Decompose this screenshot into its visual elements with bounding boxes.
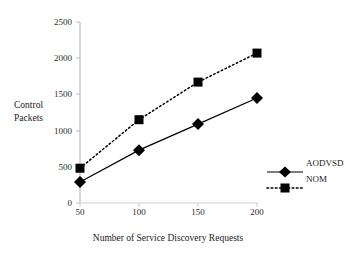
aodvsd-line: [80, 98, 257, 182]
y-tick-label-1000: 1000: [54, 126, 73, 136]
series-nom: [76, 49, 262, 173]
line-chart-svg: 2500 2000 1500 1000 500 0 50 100 150 200: [0, 0, 363, 256]
x-tick-label-50: 50: [76, 207, 86, 217]
legend-label-aodvsd[interactable]: AODVSD: [306, 158, 344, 168]
series-aodvsd: [74, 92, 263, 188]
nom-marker-200: [253, 49, 262, 58]
y-axis-tick-labels: 2500 2000 1500 1000 500 0: [54, 17, 73, 208]
legend-diamond-marker: [279, 167, 291, 178]
x-axis-tick-labels: 50 100 150 200: [76, 207, 265, 217]
aodvsd-marker-100: [133, 144, 145, 156]
x-tick-label-150: 150: [191, 207, 205, 217]
y-axis-title-line2: Packets: [14, 113, 43, 123]
y-tick-label-1500: 1500: [54, 89, 73, 99]
y-axis-title-line1: Control: [14, 100, 43, 110]
y-tick-label-2000: 2000: [54, 53, 73, 63]
nom-marker-150: [194, 78, 203, 87]
x-tick-label-200: 200: [250, 207, 264, 217]
x-tick-label-100: 100: [132, 207, 146, 217]
aodvsd-marker-150: [192, 118, 204, 130]
aodvsd-marker-200: [251, 92, 263, 104]
nom-line: [80, 53, 257, 168]
nom-marker-50: [76, 164, 85, 173]
y-axis-title: Control Packets: [14, 100, 43, 123]
y-tick-label-500: 500: [59, 162, 73, 172]
legend-label-nom[interactable]: NOM: [306, 174, 327, 184]
x-axis-ticks: [80, 203, 257, 207]
y-tick-label-0: 0: [68, 198, 73, 208]
aodvsd-marker-50: [74, 176, 86, 188]
y-tick-label-2500: 2500: [54, 17, 73, 27]
x-axis-title: Number of Service Discovery Requests: [93, 233, 244, 243]
nom-marker-100: [135, 115, 144, 124]
chart-figure: 2500 2000 1500 1000 500 0 50 100 150 200: [0, 0, 363, 256]
legend-square-marker: [281, 184, 290, 193]
chart-legend: AODVSD NOM: [267, 158, 344, 193]
